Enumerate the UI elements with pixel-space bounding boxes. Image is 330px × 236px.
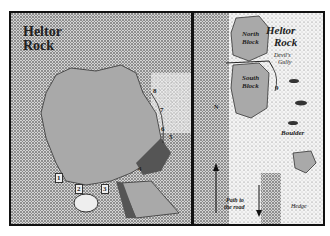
path-label-2: the road <box>224 204 245 210</box>
hedge-label: Hedge <box>291 203 307 209</box>
right-title-line2: Rock <box>274 37 297 48</box>
north-block-label-2: Block <box>242 39 259 46</box>
north-block-label-1: North <box>242 31 259 38</box>
route-number-7: 7 <box>160 106 164 114</box>
devils-gully-label-1: Devil's <box>274 52 291 58</box>
route-number-5: 5 <box>169 133 173 141</box>
route-number-2: 2 <box>75 184 83 194</box>
north-arrow-label: N <box>214 104 218 110</box>
route-number-9: 9 <box>275 84 279 92</box>
map-frame: Heltor Rock 1 2 3 4 5 6 7 8 Heltor Rock … <box>9 11 325 226</box>
route-number-6: 6 <box>161 125 165 133</box>
right-title-line1: Heltor <box>266 25 295 36</box>
right-panel: Heltor Rock North Block South Block Devi… <box>194 13 323 224</box>
left-title-line2: Rock <box>23 39 54 53</box>
left-title-line1: Heltor <box>23 25 62 39</box>
devils-gully-label-2: Gully <box>278 59 291 65</box>
south-block-label-2: Block <box>242 83 259 90</box>
boulder-label: Boulder <box>281 130 304 137</box>
route-number-1: 1 <box>55 173 63 183</box>
left-panel: Heltor Rock 1 2 3 4 5 6 7 8 <box>11 13 191 224</box>
south-block-label-1: South <box>242 75 259 82</box>
route-number-3: 3 <box>101 184 109 194</box>
route-number-8: 8 <box>153 87 157 95</box>
path-label-1: Path to <box>226 197 244 203</box>
route-number-4: 4 <box>138 165 142 173</box>
